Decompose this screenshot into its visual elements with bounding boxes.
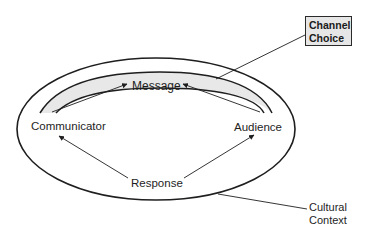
- response-label: Response: [131, 178, 183, 190]
- audience-label: Audience: [234, 122, 282, 134]
- channel-choice-box: Channel Choice: [305, 16, 352, 46]
- channel-choice-line2: Choice: [309, 32, 351, 45]
- arrow-response-to-audience: [184, 135, 254, 178]
- cultural-context-line2: Context: [309, 214, 347, 227]
- cultural-context-leader-line: [218, 194, 307, 209]
- message-label: Message: [132, 80, 181, 92]
- cultural-context-label: Cultural Context: [309, 201, 347, 226]
- arrow-response-to-communicator: [59, 136, 128, 178]
- channel-choice-leader-line: [216, 35, 305, 79]
- communicator-label: Communicator: [31, 121, 106, 133]
- channel-choice-line1: Channel: [309, 19, 351, 32]
- cultural-context-line1: Cultural: [309, 201, 347, 214]
